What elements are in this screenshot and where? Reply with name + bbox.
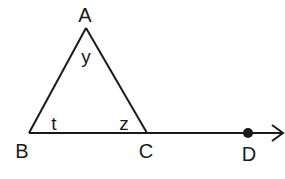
angle-t: t [51,113,57,134]
triangle-diagram: A B C D y t z [0,0,285,179]
label-d: D [242,143,256,165]
side-ab [29,28,86,133]
label-c: C [139,140,153,162]
side-ac [86,28,147,133]
point-d-dot [243,128,253,138]
label-a: A [78,4,92,26]
angle-z: z [119,113,129,134]
angle-y: y [81,46,91,67]
label-b: B [15,140,28,162]
